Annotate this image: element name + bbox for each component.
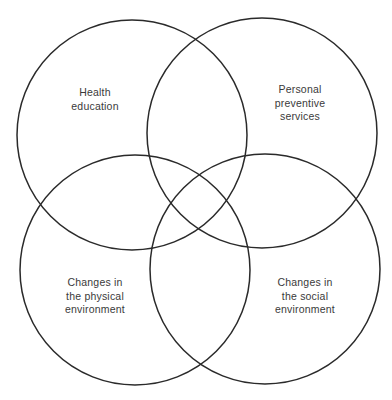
label-line: services bbox=[245, 110, 355, 124]
label-line: preventive bbox=[245, 97, 355, 111]
label-physical-environment: Changes in the physical environment bbox=[40, 276, 150, 317]
label-social-environment: Changes in the social environment bbox=[250, 276, 360, 317]
label-line: the physical bbox=[40, 290, 150, 304]
label-line: environment bbox=[250, 303, 360, 317]
venn-diagram bbox=[0, 0, 392, 400]
label-line: Health bbox=[40, 86, 150, 100]
label-line: Personal bbox=[245, 83, 355, 97]
label-health-education: Health education bbox=[40, 86, 150, 113]
label-line: education bbox=[40, 100, 150, 114]
label-line: Changes in bbox=[250, 276, 360, 290]
circle-physical-environment bbox=[20, 155, 250, 385]
circle-health-education bbox=[17, 20, 247, 250]
circle-personal-preventive-services bbox=[147, 18, 377, 248]
circle-social-environment bbox=[150, 154, 380, 384]
label-line: environment bbox=[40, 303, 150, 317]
label-line: the social bbox=[250, 290, 360, 304]
label-personal-preventive-services: Personal preventive services bbox=[245, 83, 355, 124]
label-line: Changes in bbox=[40, 276, 150, 290]
